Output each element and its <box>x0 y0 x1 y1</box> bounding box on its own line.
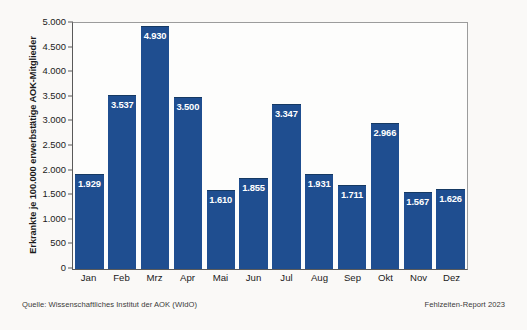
bar[interactable]: 1.855 <box>239 178 267 269</box>
bar-column: 3.500 <box>174 23 202 269</box>
bar-value-label: 3.500 <box>174 101 202 112</box>
y-axis-tick-label: 2.500 <box>43 139 66 150</box>
bar-column: 1.610 <box>207 23 235 269</box>
bar[interactable]: 1.610 <box>207 190 235 269</box>
bar-value-label: 1.610 <box>207 194 235 205</box>
bar-column: 1.567 <box>404 23 432 269</box>
bar-value-label: 1.929 <box>75 178 103 189</box>
x-axis-tick-label: Jun <box>239 272 268 288</box>
y-axis-tick-label: 500 <box>50 237 66 248</box>
bar-value-label: 1.567 <box>404 196 432 207</box>
chart-figure: Erkrankte je 100.000 erwerbstätige AOK-M… <box>0 0 527 330</box>
bar[interactable]: 1.929 <box>75 174 103 269</box>
y-axis-tick-label: 5.000 <box>43 16 66 27</box>
source-note: Quelle: Wissenschaftliches Institut der … <box>22 300 197 309</box>
y-axis-tick-label: 0 <box>61 262 66 273</box>
bar-value-label: 2.966 <box>371 127 399 138</box>
x-axis-tick-label: Feb <box>107 272 136 288</box>
bar-value-label: 3.347 <box>272 108 300 119</box>
bar-column: 1.855 <box>239 23 267 269</box>
bar[interactable]: 1.567 <box>404 192 432 269</box>
bar-column: 4.930 <box>141 23 169 269</box>
bar[interactable]: 1.626 <box>436 189 464 269</box>
bar-value-label: 4.930 <box>141 30 169 41</box>
x-axis-tick-label: Mrz <box>140 272 169 288</box>
y-axis-tick-label: 4.000 <box>43 65 66 76</box>
y-axis-tick-label: 3.000 <box>43 114 66 125</box>
x-axis-tick-label: Jul <box>272 272 301 288</box>
x-axis-tick-label: Apr <box>173 272 202 288</box>
x-axis-tick-label: Sep <box>338 272 367 288</box>
x-axis-tick-labels: JanFebMrzAprMaiJunJulAugSepOktNovDez <box>72 272 468 288</box>
bar-column: 3.537 <box>108 23 136 269</box>
bar-value-label: 3.537 <box>108 99 136 110</box>
bar-column: 2.966 <box>371 23 399 269</box>
bar-value-label: 1.626 <box>436 193 464 204</box>
bar[interactable]: 1.711 <box>338 185 366 269</box>
bar-column: 1.626 <box>436 23 464 269</box>
bar[interactable]: 3.500 <box>174 97 202 269</box>
y-axis-title: Erkrankte je 100.000 erwerbstätige AOK-M… <box>28 0 38 290</box>
bar[interactable]: 2.966 <box>371 123 399 269</box>
x-axis-tick-label: Aug <box>305 272 334 288</box>
bar-value-label: 1.711 <box>338 189 366 200</box>
x-axis-tick-label: Nov <box>404 272 433 288</box>
bar-value-label: 1.855 <box>239 182 267 193</box>
y-axis-tick-label: 1.500 <box>43 188 66 199</box>
x-axis-tick-label: Okt <box>371 272 400 288</box>
x-axis-tick-label: Dez <box>437 272 466 288</box>
y-axis-tick-label: 4.500 <box>43 40 66 51</box>
bar-column: 1.929 <box>75 23 103 269</box>
bar[interactable]: 4.930 <box>141 26 169 269</box>
plot-area: 05001.0001.5002.0002.5003.0003.5004.0004… <box>72 22 468 270</box>
x-axis-tick-label: Mai <box>206 272 235 288</box>
y-axis-tick-label: 2.000 <box>43 163 66 174</box>
x-axis-tick-label: Jan <box>74 272 103 288</box>
y-axis-tick-label: 3.500 <box>43 89 66 100</box>
bar[interactable]: 3.347 <box>272 104 300 269</box>
bar-column: 1.931 <box>305 23 333 269</box>
bar-series: 1.9293.5374.9303.5001.6101.8553.3471.931… <box>73 23 467 269</box>
bar-column: 3.347 <box>272 23 300 269</box>
bar[interactable]: 1.931 <box>305 174 333 269</box>
bar-value-label: 1.931 <box>305 178 333 189</box>
report-note: Fehlzeiten-Report 2023 <box>425 300 505 309</box>
bar-column: 1.711 <box>338 23 366 269</box>
y-axis-tick-label: 1.000 <box>43 212 66 223</box>
bar[interactable]: 3.537 <box>108 95 136 269</box>
